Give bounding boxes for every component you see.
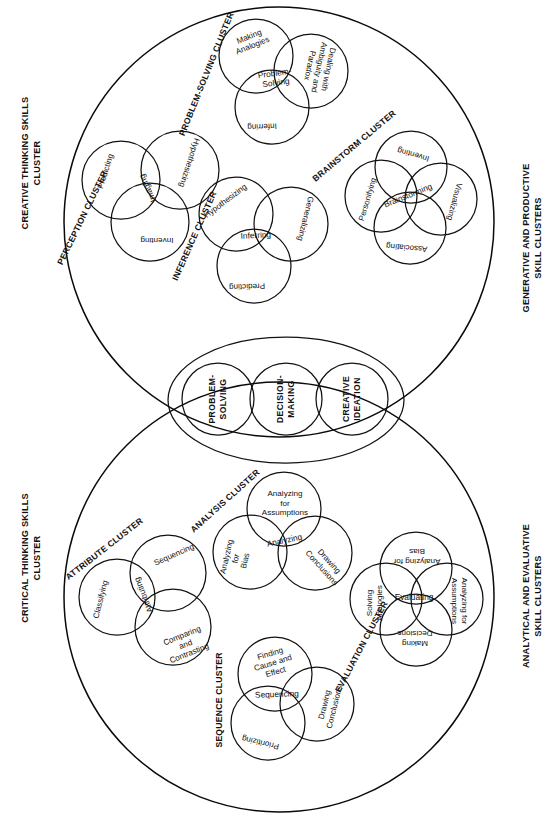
skill-analyzing-assumptions-eval-1: Analyzing for xyxy=(460,578,469,625)
cluster-analysis: Analyzing for Assumptions Analyzing for … xyxy=(188,467,352,590)
skill-analyzing-assumptions-2: for xyxy=(280,499,290,508)
skill-analyzing-assumptions-3: Assumptions xyxy=(262,508,308,517)
diagram-canvas: PROBLEM- SOLVING DECISION- MAKING CREATI… xyxy=(0,0,558,819)
skill-analyzing-assumptions-eval-2: Assumptions xyxy=(450,578,459,624)
cluster-inference: Hypothesizing Generalizing Predicting In… xyxy=(170,177,328,303)
svg-text:CRITICAL THINKING SKILLS: CRITICAL THINKING SKILLS xyxy=(20,493,30,623)
skill-classifying: Classifying xyxy=(91,579,109,619)
svg-text:SKILL CLUSTERS: SKILL CLUSTERS xyxy=(533,197,543,278)
skill-analyzing-bias-eval-1: Analyzing for xyxy=(393,557,440,566)
svg-text:CREATIVE: CREATIVE xyxy=(341,376,351,422)
skill-inventing: Inventing xyxy=(141,236,174,245)
svg-text:SKILL CLUSTERS: SKILL CLUSTERS xyxy=(533,555,543,636)
side-label-generative-productive: GENERATIVE AND PRODUCTIVE SKILL CLUSTERS xyxy=(521,164,543,313)
svg-text:MAKING: MAKING xyxy=(286,380,296,417)
skill-visualizing: Visualizing xyxy=(445,182,464,222)
cluster-label-evaluation: EVALUATION CLUSTER xyxy=(333,599,390,694)
side-label-critical-thinking: CRITICAL THINKING SKILLS CLUSTER xyxy=(20,493,42,623)
cluster-label-inference: INFERENCE CLUSTER xyxy=(170,189,219,282)
skill-predicting-2: Predicting xyxy=(229,281,265,291)
cluster-brainstorm: Personifying Inventing Visualizing Assoc… xyxy=(310,108,477,264)
core-label-creative-ideation: CREATIVE IDEATION xyxy=(341,376,362,422)
cluster-sequence: Finding Cause and Effect Drawing Conclus… xyxy=(214,637,354,760)
skill-associating: Associating xyxy=(386,241,428,254)
svg-text:ANALYTICAL AND EVALUATIVE: ANALYTICAL AND EVALUATIVE xyxy=(521,524,531,668)
svg-text:CLUSTER: CLUSTER xyxy=(32,535,42,580)
skill-sequencing-center: Sequencing xyxy=(255,688,300,700)
skill-inferring: Inferring xyxy=(247,121,277,131)
skill-inferring-center: Inferring xyxy=(240,229,271,241)
core-label-decision-making: DECISION- MAKING xyxy=(275,375,296,423)
skill-evaluating: Evaluating xyxy=(395,592,434,602)
skill-personifying: Personifying xyxy=(357,177,378,222)
side-label-creative-thinking: CREATIVE THINKING SKILLS CLUSTER xyxy=(20,97,42,230)
svg-text:CREATIVE THINKING SKILLS: CREATIVE THINKING SKILLS xyxy=(20,97,30,230)
core-label-problem-solving: PROBLEM- SOLVING xyxy=(207,374,228,423)
cluster-attribute: Classifying Sequencing Comparing and Con… xyxy=(64,515,211,665)
svg-text:GENERATIVE AND PRODUCTIVE: GENERATIVE AND PRODUCTIVE xyxy=(521,164,531,313)
cluster-problem-solving: Making Analogies Dealing with Ambiguity … xyxy=(177,10,348,144)
skill-imaging: Imaging xyxy=(136,172,158,203)
skill-analyzing-bias-eval-2: Bias xyxy=(409,547,425,556)
skill-making-decisions-2: Decisions xyxy=(397,629,432,638)
skill-sequencing: Sequencing xyxy=(153,542,196,568)
cluster-evaluation: Solving Analogies Analyzing for Bias Ana… xyxy=(333,532,483,694)
svg-text:SOLVING: SOLVING xyxy=(218,379,228,420)
skill-analyzing-bias-3: Bias xyxy=(239,552,251,569)
skill-hypothesizing: Hypothesizing xyxy=(177,137,201,188)
clusters-diagram: PROBLEM- SOLVING DECISION- MAKING CREATI… xyxy=(0,0,558,819)
skill-inventing-2: Inventing xyxy=(396,146,430,164)
cluster-label-sequence: SEQUENCE CLUSTER xyxy=(214,652,224,748)
skill-analyzing-assumptions-1: Analyzing xyxy=(267,489,302,498)
skill-making-decisions-1: Making xyxy=(402,639,428,648)
svg-text:CLUSTER: CLUSTER xyxy=(32,140,42,185)
svg-text:IDEATION: IDEATION xyxy=(352,377,362,421)
skill-prioritizing: Prioritizing xyxy=(241,734,280,751)
skill-generalizing: Generalizing xyxy=(296,195,316,241)
side-label-analytical-evaluative: ANALYTICAL AND EVALUATIVE SKILL CLUSTERS xyxy=(521,524,543,668)
skill-solving-analogies-1: Solving xyxy=(365,590,374,617)
svg-text:DECISION-: DECISION- xyxy=(275,375,285,423)
svg-text:PROBLEM-: PROBLEM- xyxy=(207,374,217,423)
